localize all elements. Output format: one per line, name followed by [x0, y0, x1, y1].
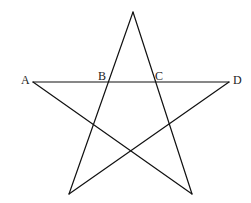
point-label-d: D [233, 73, 242, 87]
edge-d-bottom-left [69, 82, 229, 194]
pentagram-svg: A B C D [0, 0, 251, 203]
diagram-canvas: A B C D [0, 0, 251, 203]
point-label-c: C [155, 69, 163, 83]
edge-a-bottom-right [33, 82, 192, 194]
point-label-b: B [98, 69, 106, 83]
edge-top-bottom-right [133, 12, 192, 194]
point-label-a: A [21, 73, 30, 87]
edge-top-bottom-left [69, 12, 133, 194]
